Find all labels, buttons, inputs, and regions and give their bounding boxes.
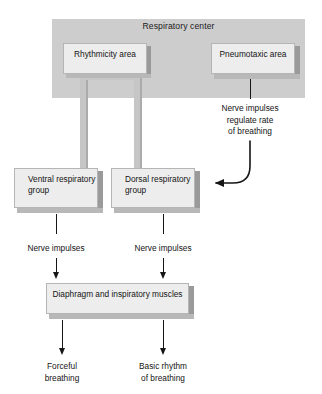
connector-bar-ventral-shadow	[86, 78, 88, 170]
curved-arrow-path	[216, 141, 250, 183]
dorsal-arrow-shaft-upper	[163, 214, 164, 234]
dorsal-arrow-head	[160, 272, 166, 279]
pneumotaxic-box-bottom	[214, 74, 300, 79]
pneumotaxic-area-label: Pneumotaxic area	[212, 49, 294, 60]
dorsal-box-side	[195, 171, 200, 212]
ventral-respiratory-group-label: Ventral respiratory group	[28, 174, 97, 196]
pneumotaxic-area-box[interactable]: Pneumotaxic area	[211, 43, 295, 74]
respiratory-center-label: Respiratory center	[52, 21, 305, 31]
ventral-box-bottom	[17, 208, 103, 213]
forceful-arrow-shaft	[62, 320, 63, 350]
nerve-impulses-right-caption: Nerve impulses	[113, 243, 213, 255]
basic-rhythm-caption: Basic rhythm of breathing	[113, 361, 213, 384]
forceful-arrow-head	[59, 348, 65, 355]
diaphragm-box-bottom	[49, 314, 194, 319]
diagram-canvas: Respiratory center Rhythmicity area Pneu…	[0, 0, 322, 394]
dorsal-box-bottom	[114, 208, 200, 213]
ventral-respiratory-group-box[interactable]: Ventral respiratory group	[14, 168, 98, 208]
ventral-arrow-head	[53, 272, 59, 279]
nerve-impulses-left-caption: Nerve impulses	[6, 243, 106, 255]
diaphragm-inspiratory-muscles-label: Diaphragm and inspiratory muscles	[47, 289, 188, 300]
basic-rhythm-arrow-shaft	[163, 320, 164, 350]
basic-rhythm-arrow-head	[160, 348, 166, 355]
ventral-box-side	[98, 171, 103, 212]
diaphragm-inspiratory-muscles-box[interactable]: Diaphragm and inspiratory muscles	[46, 283, 189, 314]
dorsal-respiratory-group-box[interactable]: Dorsal respiratory group	[111, 168, 195, 208]
rhythmicity-box-bottom	[66, 74, 151, 78]
forceful-breathing-caption: Forceful breathing	[12, 361, 112, 384]
ventral-arrow-shaft-upper	[56, 214, 57, 234]
curved-arrow-head	[215, 179, 224, 187]
connector-bar-dorsal-shadow	[140, 78, 142, 170]
regulate-rate-caption: Nerve impulses regulate rate of breathin…	[190, 103, 310, 138]
dorsal-respiratory-group-label: Dorsal respiratory group	[125, 174, 194, 196]
rhythmicity-area-label: Rhythmicity area	[64, 49, 146, 60]
rhythmicity-box-side	[147, 46, 151, 77]
pneumotaxic-outflow-line	[250, 79, 251, 99]
rhythmicity-area-box[interactable]: Rhythmicity area	[63, 43, 147, 74]
